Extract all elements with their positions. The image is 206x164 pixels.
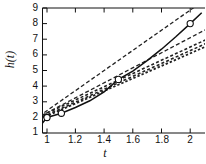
series-fit-2: [29, 24, 205, 122]
x-tick-marks: [47, 129, 190, 134]
x-tick-marks-top: [47, 8, 190, 13]
figure: h(t) t 9 8 7 6 5 4 3 2 1 1 1.2 1.4 1.6 1…: [0, 0, 205, 164]
plot-area: [0, 0, 205, 164]
axis-frame: [43, 8, 206, 133]
series-fit-1: [29, 0, 205, 124]
